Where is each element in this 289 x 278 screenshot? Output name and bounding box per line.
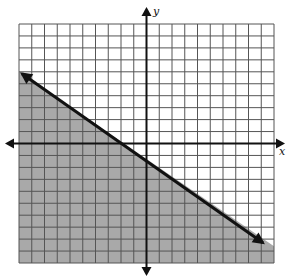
x-axis-left-arrow-icon xyxy=(5,139,14,149)
y-axis-up-arrow-icon xyxy=(142,7,152,16)
y-axis-down-arrow-icon xyxy=(142,267,152,276)
coordinate-plane xyxy=(0,0,289,278)
y-axis-label: y xyxy=(153,5,159,18)
x-axis-label: x xyxy=(279,145,285,158)
